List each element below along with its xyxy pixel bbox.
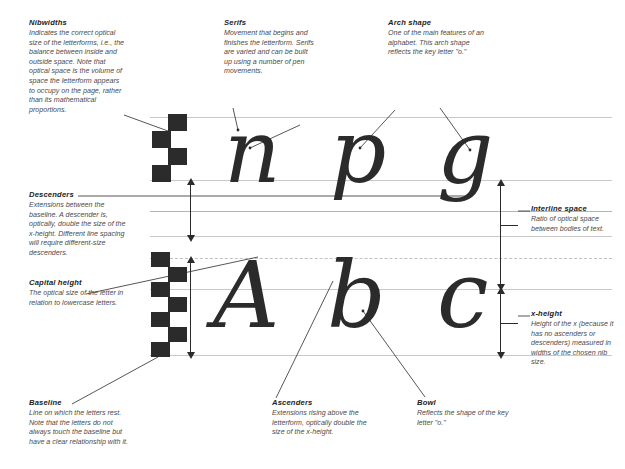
note-body: Reflects the shape of the key letter "o.…	[417, 409, 517, 428]
leader-bowl	[363, 311, 425, 397]
leader-baseline	[72, 357, 158, 404]
leader-dot	[469, 149, 472, 152]
note-title: Serifs	[224, 18, 316, 28]
note-body: Line on which the letters rest. Note tha…	[29, 409, 133, 447]
note-body: Ratio of optical space between bodies of…	[531, 215, 621, 234]
note-body: Extensions between the baseline. A desce…	[29, 201, 133, 259]
note-title: Ascenders	[272, 398, 372, 408]
note-title: Arch shape	[388, 18, 488, 28]
leader-serifs-2	[250, 125, 300, 148]
note-arch-shape: Arch shape One of the main features of a…	[388, 18, 488, 58]
leader-ascenders	[276, 281, 333, 398]
note-title: x-height	[531, 309, 623, 319]
note-body: The optical size of the letter in relati…	[29, 289, 133, 308]
note-title: Descenders	[29, 190, 133, 200]
note-title: Bowl	[417, 398, 517, 408]
note-x-height: x-height Height of the x (because it has…	[531, 309, 623, 368]
leader-arch-2	[440, 108, 470, 150]
note-interline-space: Interline space Ratio of optical space b…	[531, 204, 621, 234]
leader-serifs-1	[233, 108, 238, 130]
note-body: Movement that begins and finishes the le…	[224, 29, 316, 77]
note-title: Interline space	[531, 204, 621, 214]
note-title: Capital height	[29, 278, 133, 288]
leader-dot	[359, 147, 362, 150]
note-body: One of the main features of an alphabet.…	[388, 29, 488, 58]
note-ascenders: Ascenders Extensions rising above the le…	[272, 398, 372, 438]
note-baseline: Baseline Line on which the letters rest.…	[29, 398, 133, 447]
leader-dot	[249, 147, 252, 150]
note-body: Indicates the correct optical size of th…	[29, 29, 125, 115]
leader-dot	[237, 129, 240, 132]
leader-nibwidths	[124, 115, 168, 131]
leader-dot	[362, 310, 365, 313]
diagram-canvas: n p g A b c	[0, 0, 625, 469]
note-title: Nibwidths	[29, 18, 125, 28]
leader-arch-1	[360, 110, 395, 148]
note-descenders: Descenders Extensions between the baseli…	[29, 190, 133, 259]
note-serifs: Serifs Movement that begins and finishes…	[224, 18, 316, 77]
note-title: Baseline	[29, 398, 133, 408]
note-bowl: Bowl Reflects the shape of the key lette…	[417, 398, 517, 428]
note-capital-height: Capital height The optical size of the l…	[29, 278, 133, 308]
note-nibwidths: Nibwidths Indicates the correct optical …	[29, 18, 125, 115]
note-body: Extensions rising above the letterform, …	[272, 409, 372, 438]
note-body: Height of the x (because it has no ascen…	[531, 320, 623, 368]
